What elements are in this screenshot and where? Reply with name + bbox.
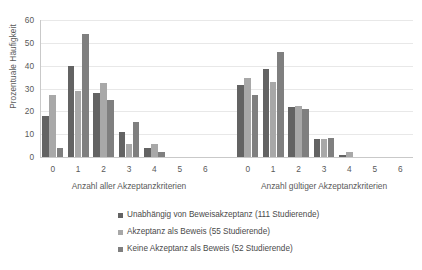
bar <box>107 100 114 157</box>
bar <box>151 144 158 157</box>
y-axis-tick-label: 40 <box>12 62 34 70</box>
x-axis-title: Anzahl gültiger Akzeptanzkriterien <box>235 181 413 191</box>
plot-area: Prozentuale Häufigkeit 0102030405060 012… <box>0 0 422 200</box>
bar <box>75 91 82 157</box>
bar <box>126 144 133 157</box>
legend-item-label: Keine Akzeptanz als Beweis (52 Studieren… <box>127 245 293 253</box>
x-axis-tick-label: 6 <box>392 165 408 173</box>
bar <box>93 93 100 157</box>
legend-swatch-icon <box>118 230 123 235</box>
axis-baseline <box>40 157 413 158</box>
x-axis-tick-label: 4 <box>146 165 162 173</box>
x-axis-tick-label: 4 <box>341 165 357 173</box>
bar <box>133 122 140 157</box>
bar <box>252 95 259 157</box>
x-axis-tick-label: 2 <box>96 165 112 173</box>
bar <box>302 109 309 157</box>
bar <box>57 148 64 157</box>
bar <box>68 66 75 157</box>
x-axis-tick-label: 1 <box>265 165 281 173</box>
y-axis-tick-label: 60 <box>12 16 34 24</box>
x-axis-tick-label: 1 <box>70 165 86 173</box>
gridline <box>40 43 413 44</box>
y-axis-tick-label: 10 <box>12 130 34 138</box>
bar <box>263 69 270 157</box>
legend-item-label: Unabhängig von Beweisakzeptanz (111 Stud… <box>127 211 319 219</box>
bar <box>339 155 346 157</box>
bar <box>314 139 321 157</box>
bar <box>328 138 335 157</box>
bar <box>295 106 302 157</box>
legend-item-label: Akzeptanz als Beweis (55 Studierende) <box>127 228 270 236</box>
y-axis-tick-label: 20 <box>12 107 34 115</box>
legend-swatch-icon <box>118 213 123 218</box>
bar <box>270 82 277 157</box>
bar <box>42 116 49 157</box>
legend-item: Akzeptanz als Beweis (55 Studierende) <box>118 224 358 241</box>
x-axis-tick-label: 0 <box>45 165 61 173</box>
y-axis-tick-label: 0 <box>12 153 34 161</box>
x-axis-tick-label: 5 <box>172 165 188 173</box>
x-axis-tick-label: 5 <box>367 165 383 173</box>
bar-chart-figure: Prozentuale Häufigkeit 0102030405060 012… <box>0 0 422 270</box>
bar <box>119 132 126 157</box>
x-axis-tick-label: 3 <box>316 165 332 173</box>
bar <box>82 34 89 157</box>
x-axis-tick-label: 6 <box>197 165 213 173</box>
bar <box>244 78 251 157</box>
gridline <box>40 66 413 67</box>
bar <box>158 152 165 157</box>
y-axis-tick-label: 30 <box>12 85 34 93</box>
y-axis-line <box>40 20 41 158</box>
gridline <box>40 20 413 21</box>
bar <box>346 152 353 157</box>
x-axis-tick-label: 0 <box>240 165 256 173</box>
legend-item: Unabhängig von Beweisakzeptanz (111 Stud… <box>118 207 358 224</box>
bar <box>237 85 244 157</box>
x-axis-tick-label: 3 <box>121 165 137 173</box>
x-axis-tick-label: 2 <box>291 165 307 173</box>
bar <box>49 95 56 157</box>
gridline <box>40 89 413 90</box>
x-axis-title: Anzahl aller Akzeptanzkriterien <box>40 181 218 191</box>
legend-swatch-icon <box>118 247 123 252</box>
bar <box>100 83 107 157</box>
bar <box>144 148 151 157</box>
y-axis-tick-label: 50 <box>12 39 34 47</box>
bar <box>288 107 295 157</box>
legend-item: Keine Akzeptanz als Beweis (52 Studieren… <box>118 241 358 258</box>
bar <box>321 139 328 157</box>
chart-legend: Unabhängig von Beweisakzeptanz (111 Stud… <box>118 207 358 258</box>
bar <box>277 52 284 157</box>
